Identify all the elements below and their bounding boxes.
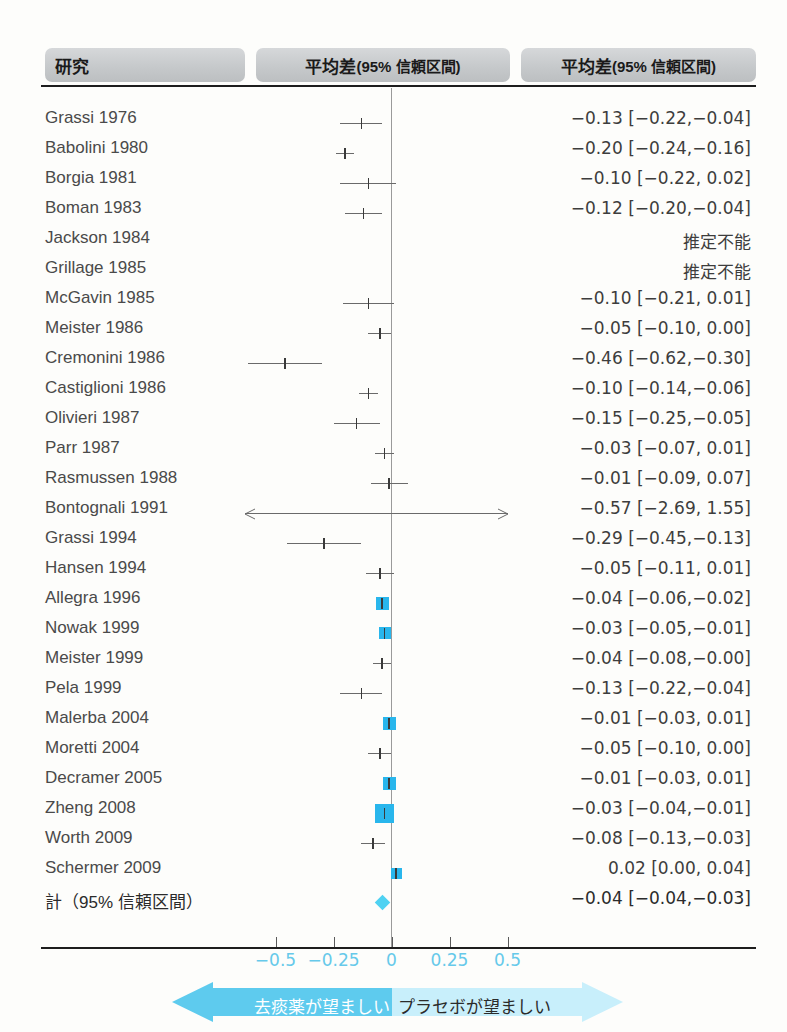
effect-value: −0.13 [−0.22,−0.04]: [571, 678, 751, 698]
study-label: Babolini 1980: [45, 138, 148, 158]
table-row: Malerba 2004−0.01 [−0.03, 0.01]: [0, 704, 787, 734]
point-estimate-marker: [379, 568, 381, 579]
study-label: Olivieri 1987: [45, 408, 140, 428]
table-row: Olivieri 1987−0.15 [−0.25,−0.05]: [0, 404, 787, 434]
study-label: Rasmussen 1988: [45, 468, 177, 488]
effect-value: −0.20 [−0.24,−0.16]: [571, 138, 751, 158]
table-row: Worth 2009−0.08 [−0.13,−0.03]: [0, 824, 787, 854]
study-label: Schermer 2009: [45, 858, 161, 878]
summary-label: 計（95% 信頼区間）: [45, 888, 203, 913]
axis-tick-label: −0.5: [255, 950, 296, 970]
favors-treatment-label: 去痰薬が望ましい: [254, 993, 390, 1018]
axis-tick-label: 0: [386, 950, 397, 970]
effect-value: 0.02 [0.00, 0.04]: [608, 858, 751, 878]
table-row: Meister 1999−0.04 [−0.08,−0.00]: [0, 644, 787, 674]
point-estimate-marker: [379, 328, 381, 339]
table-row: Grassi 1994−0.29 [−0.45,−0.13]: [0, 524, 787, 554]
effect-value: −0.46 [−0.62,−0.30]: [571, 348, 751, 368]
axis-tick: [450, 937, 452, 947]
axis-tick: [392, 937, 394, 947]
effect-value: −0.57 [−2.69, 1.55]: [579, 498, 751, 518]
table-row: Bontognali 1991−0.57 [−2.69, 1.55]: [0, 494, 787, 524]
study-label: Grassi 1976: [45, 108, 137, 128]
study-label: Boman 1983: [45, 198, 141, 218]
study-label: Hansen 1994: [45, 558, 146, 578]
axis-tick-label: 0.5: [494, 950, 521, 970]
table-row: Hansen 1994−0.05 [−0.11, 0.01]: [0, 554, 787, 584]
table-row: Moretti 2004−0.05 [−0.10, 0.00]: [0, 734, 787, 764]
study-label: Meister 1999: [45, 648, 143, 668]
forest-plot: 研究 平均差(95% 信頼区間) 平均差(95% 信頼区間) Grassi 19…: [0, 0, 787, 1032]
study-label: Grassi 1994: [45, 528, 137, 548]
study-label: Pela 1999: [45, 678, 122, 698]
effect-value: −0.10 [−0.22, 0.02]: [579, 168, 751, 188]
table-row: Allegra 1996−0.04 [−0.06,−0.02]: [0, 584, 787, 614]
effect-value: −0.03 [−0.07, 0.01]: [579, 438, 751, 458]
right-arrow-head-icon: [582, 982, 623, 1022]
point-estimate-marker: [344, 148, 346, 159]
column-header-study-label: 研究: [55, 53, 89, 78]
table-row: Rasmussen 1988−0.01 [−0.09, 0.07]: [0, 464, 787, 494]
study-label: Castiglioni 1986: [45, 378, 166, 398]
point-estimate-marker: [388, 718, 390, 729]
point-estimate-marker: [361, 118, 363, 129]
point-estimate-marker: [368, 298, 370, 309]
column-header-result-sublabel: (95% 信頼区間): [612, 55, 716, 76]
axis-tick-label: −0.25: [307, 950, 359, 970]
point-estimate-marker: [381, 658, 383, 669]
point-estimate-marker: [384, 628, 386, 639]
point-estimate-marker: [323, 538, 325, 549]
study-label: McGavin 1985: [45, 288, 155, 308]
study-label: Bontognali 1991: [45, 498, 168, 518]
study-label: Jackson 1984: [45, 228, 150, 248]
effect-value: −0.03 [−0.04,−0.01]: [571, 798, 751, 818]
point-estimate-marker: [384, 448, 386, 459]
effect-value: −0.13 [−0.22,−0.04]: [571, 108, 751, 128]
effect-value: −0.01 [−0.03, 0.01]: [579, 768, 751, 788]
effect-value: −0.04 [−0.06,−0.02]: [571, 588, 751, 608]
effect-value: −0.12 [−0.20,−0.04]: [571, 198, 751, 218]
table-row: Cremonini 1986−0.46 [−0.62,−0.30]: [0, 344, 787, 374]
summary-row: 計（95% 信頼区間）−0.04 [−0.04,−0.03]: [0, 884, 787, 914]
point-estimate-marker: [363, 208, 365, 219]
effect-value: −0.03 [−0.05,−0.01]: [571, 618, 751, 638]
favors-placebo-label: プラセボが望ましい: [398, 993, 551, 1018]
study-label: Meister 1986: [45, 318, 143, 338]
point-estimate-marker: [381, 598, 383, 609]
study-label: Grillage 1985: [45, 258, 146, 278]
column-header-result-label: 平均差: [561, 53, 612, 78]
column-header-plot-sublabel: (95% 信頼区間): [356, 55, 460, 76]
effect-value: −0.05 [−0.11, 0.01]: [579, 558, 751, 578]
study-label: Borgia 1981: [45, 168, 137, 188]
effect-value: 推定不能: [683, 228, 751, 253]
left-arrow-head-icon: [172, 982, 213, 1022]
effect-value: −0.10 [−0.21, 0.01]: [579, 288, 751, 308]
point-estimate-marker: [361, 688, 363, 699]
summary-effect-value: −0.04 [−0.04,−0.03]: [571, 888, 751, 908]
point-estimate-marker: [388, 778, 390, 789]
point-estimate-marker: [372, 838, 374, 849]
effect-value: −0.29 [−0.45,−0.13]: [571, 528, 751, 548]
column-header-study: 研究: [45, 48, 245, 82]
column-header-plot-label: 平均差: [305, 53, 356, 78]
x-axis-line: [41, 947, 756, 949]
effect-value: −0.15 [−0.25,−0.05]: [571, 408, 751, 428]
table-row: Grillage 1985推定不能: [0, 254, 787, 284]
column-header-plot: 平均差(95% 信頼区間): [256, 48, 510, 82]
table-row: Parr 1987−0.03 [−0.07, 0.01]: [0, 434, 787, 464]
study-label: Malerba 2004: [45, 708, 149, 728]
effect-value: 推定不能: [683, 258, 751, 283]
point-estimate-marker: [395, 868, 397, 879]
table-row: Boman 1983−0.12 [−0.20,−0.04]: [0, 194, 787, 224]
study-label: Parr 1987: [45, 438, 120, 458]
table-row: Nowak 1999−0.03 [−0.05,−0.01]: [0, 614, 787, 644]
point-estimate-marker: [388, 478, 390, 489]
table-row: Grassi 1976−0.13 [−0.22,−0.04]: [0, 104, 787, 134]
axis-tick: [334, 937, 336, 947]
point-estimate-marker: [384, 808, 386, 819]
effect-value: −0.04 [−0.08,−0.00]: [571, 648, 751, 668]
axis-tick: [276, 937, 278, 947]
header-divider: [41, 85, 756, 87]
point-estimate-marker: [368, 388, 370, 399]
study-label: Zheng 2008: [45, 798, 136, 818]
